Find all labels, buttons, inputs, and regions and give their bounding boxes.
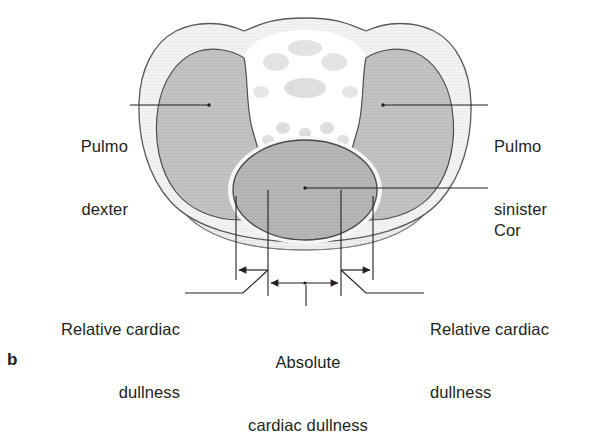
label-absolute-cardiac-dullness: Absolute cardiac dullness xyxy=(228,310,388,435)
label-relative-left-line2: dullness xyxy=(8,382,180,403)
absolute-midpoint-dot xyxy=(303,281,306,284)
leader-relative-right xyxy=(341,270,424,293)
label-cor: Cor xyxy=(494,178,584,283)
label-pulmo-sinister-line1: Pulmo xyxy=(494,136,606,157)
label-absolute-line2: cardiac dullness xyxy=(228,415,388,435)
heart-cor xyxy=(228,136,382,244)
label-relative-cardiac-dullness-right: Relative cardiac dullness xyxy=(430,277,605,435)
label-pulmo-dexter: Pulmo dexter xyxy=(18,94,128,262)
label-cor-line1: Cor xyxy=(494,220,584,241)
measurement-arrows xyxy=(239,270,370,285)
label-pulmo-dexter-line2: dexter xyxy=(18,199,128,220)
label-relative-right-line2: dullness xyxy=(430,382,605,403)
mediastinum-mottle xyxy=(288,40,322,56)
label-absolute-line1: Absolute xyxy=(228,352,388,373)
label-pulmo-dexter-line1: Pulmo xyxy=(18,136,128,157)
label-relative-cardiac-dullness-left: Relative cardiac dullness xyxy=(8,277,180,435)
label-relative-left-line1: Relative cardiac xyxy=(8,319,180,340)
leader-relative-left xyxy=(185,270,268,293)
leader-dot-cor xyxy=(303,186,306,189)
leader-dot-pulmo-dexter xyxy=(207,103,210,106)
label-relative-right-line1: Relative cardiac xyxy=(430,319,605,340)
leader-dot-pulmo-sinister xyxy=(381,103,384,106)
panel-letter-label: b xyxy=(7,350,17,370)
